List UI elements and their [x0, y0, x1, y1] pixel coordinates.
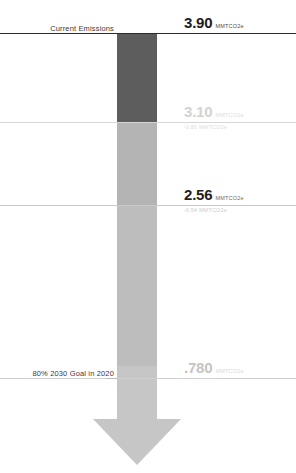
leader-line-goal [107, 378, 117, 379]
emissions-bar [117, 33, 157, 419]
marker-value-second: 3.10MMTCO2e [184, 104, 244, 120]
marker-rule [0, 205, 296, 206]
marker-value-number-goal: .780 [184, 359, 212, 376]
marker-rule [0, 378, 296, 379]
marker-value-number-second: 3.10 [184, 103, 212, 120]
marker-value-number-third: 2.56 [184, 186, 212, 203]
leader-line-current [107, 33, 117, 34]
bar-band-goal [117, 366, 157, 419]
marker-value-goal: .780MMTCO2e [184, 360, 244, 376]
marker-label-goal: 80% 2030 Goal in 2020 [32, 369, 114, 378]
bar-band-second [117, 122, 157, 205]
bar-band-third [117, 205, 157, 366]
marker-delta-third: -0.54 MMTCO2e [184, 207, 227, 213]
marker-value-unit-third: MMTCO2e [215, 195, 243, 201]
marker-value-unit-current: MMTCO2e [215, 23, 243, 29]
marker-value-number-current: 3.90 [184, 14, 212, 31]
emissions-reduction-arrow-chart: Current Emissions 3.90MMTCO2e 3.10MMTCO2… [0, 0, 296, 473]
bar-band-current [117, 33, 157, 122]
marker-delta-second: -0.80 MMTCO2e [184, 124, 227, 130]
arrow-head-icon [93, 419, 181, 465]
marker-value-unit-goal: MMTCO2e [215, 368, 243, 374]
marker-value-current: 3.90MMTCO2e [184, 15, 244, 31]
marker-value-third: 2.56MMTCO2e [184, 187, 244, 203]
marker-value-unit-second: MMTCO2e [215, 112, 243, 118]
marker-label-current: Current Emissions [50, 24, 114, 33]
marker-rule [0, 122, 296, 123]
marker-rule [0, 33, 296, 34]
